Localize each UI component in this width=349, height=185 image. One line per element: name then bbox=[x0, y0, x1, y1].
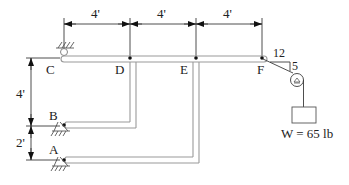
label-b: B bbox=[49, 108, 58, 123]
dim-label-cb: 4' bbox=[16, 86, 25, 101]
dim-label-ba: 2' bbox=[16, 135, 25, 150]
pulley-icon bbox=[291, 74, 304, 87]
slope-rise-label: 5 bbox=[292, 59, 298, 73]
pin-support-b bbox=[51, 122, 70, 136]
pin-support-c bbox=[56, 42, 74, 56]
label-d: D bbox=[115, 62, 124, 77]
dim-label-de: 4' bbox=[157, 6, 166, 21]
dim-label-ef: 4' bbox=[223, 6, 232, 21]
label-e: E bbox=[180, 62, 188, 77]
mechanism-diagram: 4' 4' 4' C D E F bbox=[0, 0, 349, 185]
top-dimension-line bbox=[64, 18, 262, 56]
link-ea bbox=[66, 62, 199, 163]
link-db bbox=[66, 62, 136, 128]
beam-cf bbox=[61, 56, 267, 62]
weight-label: W = 65 lb bbox=[281, 126, 333, 141]
pin-support-a bbox=[51, 157, 70, 171]
joint-e bbox=[194, 56, 198, 60]
slope-run-label: 12 bbox=[273, 46, 285, 60]
cable-f-pulley bbox=[263, 59, 293, 73]
label-c: C bbox=[46, 62, 55, 77]
label-f: F bbox=[257, 62, 264, 77]
weight-block bbox=[292, 107, 316, 123]
joint-d bbox=[128, 56, 132, 60]
dim-label-cd: 4' bbox=[91, 6, 100, 21]
label-a: A bbox=[49, 142, 59, 157]
